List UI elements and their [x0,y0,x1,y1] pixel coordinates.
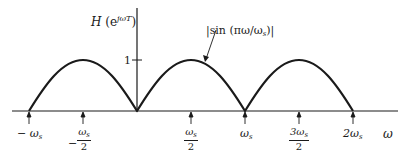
y-tick-label-1: 1 [124,55,131,66]
x-tick-arrows [27,112,355,124]
x-tick-neg-half-den: 2 [77,141,91,152]
y-axis-label-close: ) [131,15,136,29]
x-tick-label-ws: ωs [240,128,253,141]
x-tick-label-neg-half-minus: − [68,138,77,149]
x-tick-label-neg-half: ωs 2 [77,127,91,152]
x-axis-label: ω [383,128,393,140]
x-tick-ws-sub: s [249,133,253,141]
curve-label-close: )| [266,24,274,37]
x-tick-neg-ws-minus: − [17,127,26,140]
curve-annotation-label: |sin (πω/ωs)| [206,25,274,38]
x-tick-label-three-half: 3ωs 2 [289,127,309,152]
x-tick-neg-half-num: ωs [77,127,91,141]
x-tick-ws-omega: ω [240,127,249,140]
y-axis-label: H (ejωT) [91,15,136,28]
x-tick-half-num: ωs [184,127,198,141]
x-tick-label-half: ωs 2 [184,127,198,152]
x-tick-half-den: 2 [184,141,198,152]
x-tick-2ws-sub: s [359,133,363,141]
curve-label-text: |sin (πω/ω [206,24,263,37]
x-tick-three-half-num: 3ωs [289,127,309,141]
x-tick-neg-ws-omega: ω [30,127,39,140]
x-tick-three-half-den: 2 [289,141,309,152]
x-tick-neg-ws-sub: s [39,133,43,141]
x-tick-label-neg-ws: − ωs [17,128,42,141]
y-axis-label-sup: jωT [117,14,131,23]
x-tick-label-2ws: 2ωs [343,128,363,141]
annotation-arrowhead-icon [203,55,209,62]
magnitude-curve [29,60,353,111]
y-axis-label-H: H [91,15,101,29]
x-tick-2ws-omega: 2ω [343,127,359,140]
y-axis-label-open: (e [101,15,117,29]
